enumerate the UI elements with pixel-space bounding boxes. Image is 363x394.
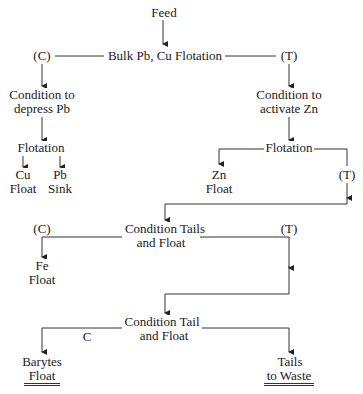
cu-label: Cu [8, 168, 38, 182]
barytes-label: Barytes [18, 355, 66, 369]
tails-t-label: (T) [276, 49, 302, 63]
tails-t-label-2: (T) [334, 168, 360, 182]
fe-label: Fe [27, 259, 57, 273]
zn-float-label: Float [204, 182, 234, 196]
condition-tails-line1: Condition Tails [122, 222, 208, 236]
tails-label: Tails [270, 355, 310, 369]
flotation-right-label: Flotation [264, 141, 314, 155]
cu-float-label: Float [8, 182, 38, 196]
feed-label: Feed [146, 6, 182, 20]
flotation-left-label: Flotation [16, 141, 66, 155]
concentrate-c-label: (C) [29, 49, 55, 63]
condition-tail-line1: Condition Tail [122, 315, 202, 329]
barytes-float-label: Float [24, 369, 60, 386]
flowsheet-diagram: Feed Bulk Pb, Cu Flotation (C) (T) Condi… [0, 0, 363, 394]
tails-t-label-3: (T) [276, 222, 302, 236]
concentrate-c-label-3: (C) [29, 222, 55, 236]
fe-float-label: Float [24, 273, 60, 287]
bulk-flotation-label: Bulk Pb, Cu Flotation [105, 49, 225, 63]
pb-sink-label: Sink [46, 182, 74, 196]
pb-label: Pb [46, 168, 74, 182]
condition-depress-pb-line2: depress Pb [6, 102, 78, 116]
condition-tails-line2: and Float [122, 236, 200, 250]
condition-tail-line2: and Float [136, 329, 192, 343]
condition-activate-zn-line2: activate Zn [253, 102, 325, 116]
concentrate-c-label-4: C [80, 330, 94, 344]
condition-depress-pb-line1: Condition to [6, 88, 78, 102]
zn-label: Zn [204, 168, 234, 182]
condition-activate-zn-line1: Condition to [253, 88, 325, 102]
to-waste-label: to Waste [264, 369, 314, 386]
